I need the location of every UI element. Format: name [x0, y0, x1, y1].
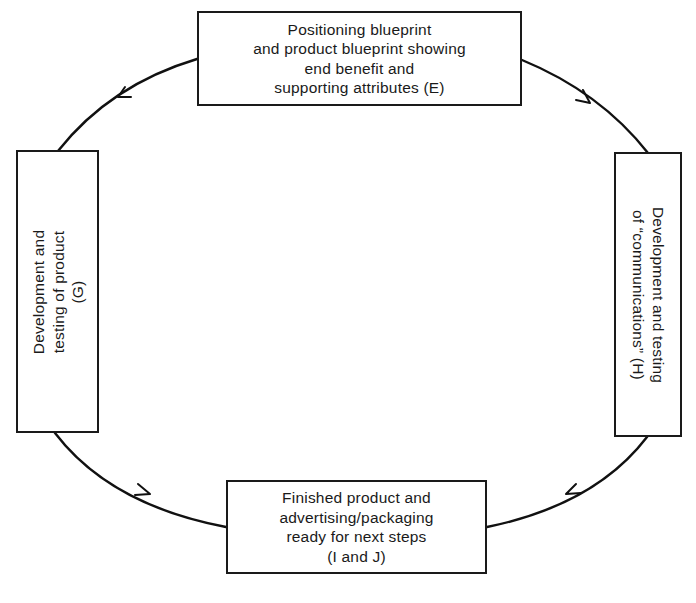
node-h-text: Development and testing of “communicatio… [629, 206, 668, 382]
node-g-text: Development and testing of product (G) [28, 229, 87, 354]
node-g-line-3: (G) [67, 229, 87, 354]
node-e-line-2: and product blueprint showing [253, 39, 466, 59]
connector-h-to-ij [487, 437, 647, 527]
node-communications-testing: Development and testing of “communicatio… [614, 152, 682, 437]
connector-e-to-g [58, 59, 197, 151]
connector-e-to-h [522, 60, 648, 153]
node-g-line-1: Development and [28, 229, 48, 354]
node-g-line-2: testing of product [48, 229, 68, 354]
node-ij-text: Finished product and advertising/packagi… [279, 488, 433, 566]
node-h-rotated-wrapper: Development and testing of “communicatio… [629, 206, 668, 382]
node-positioning-blueprint: Positioning blueprint and product bluepr… [197, 11, 522, 106]
node-g-rotated-wrapper: Development and testing of product (G) [28, 229, 87, 354]
node-ij-line-1: Finished product and [279, 488, 433, 508]
node-e-line-1: Positioning blueprint [253, 20, 466, 40]
arrowhead-h-to-ij [566, 484, 581, 494]
node-e-text: Positioning blueprint and product bluepr… [253, 20, 466, 98]
node-ij-line-3: ready for next steps [279, 527, 433, 547]
node-product-testing: Development and testing of product (G) [16, 150, 99, 433]
node-e-line-4: supporting attributes (E) [253, 78, 466, 98]
node-ij-line-4: (I and J) [279, 547, 433, 567]
node-h-line-1: Development and testing [648, 206, 668, 382]
node-ij-line-2: advertising/packaging [279, 508, 433, 528]
connector-g-to-ij [55, 433, 226, 527]
node-finished-product: Finished product and advertising/packagi… [226, 480, 487, 574]
arrowhead-g-to-ij [135, 484, 150, 495]
node-h-line-2: of “communications” (H) [629, 206, 649, 382]
node-e-line-3: end benefit and [253, 59, 466, 79]
